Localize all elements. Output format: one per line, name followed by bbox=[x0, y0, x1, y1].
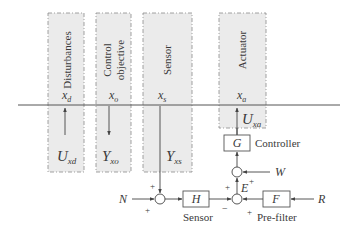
control-system-diagram: Disturbances Control objective Sensor Ac… bbox=[0, 0, 352, 227]
signal-R: R bbox=[317, 192, 326, 206]
sum-junction-e bbox=[232, 194, 242, 204]
signal-W: W bbox=[275, 165, 286, 179]
panel-title-disturbances: Disturbances bbox=[61, 31, 73, 88]
panel-title-control: Control bbox=[101, 43, 113, 77]
sign-noise-plus-bottom: + bbox=[145, 205, 150, 215]
sensor-symbol: H bbox=[191, 192, 202, 206]
sum-junction-noise bbox=[155, 194, 165, 204]
sum-junction-w bbox=[232, 167, 242, 177]
signal-E: E bbox=[240, 181, 249, 195]
prefilter-label: Pre-filter bbox=[257, 211, 297, 223]
panel-title-objective: objective bbox=[114, 40, 126, 80]
sign-noise-plus-top: + bbox=[150, 181, 155, 191]
panel-title-actuator: Actuator bbox=[236, 30, 248, 69]
sign-e-plus-prefilter: + bbox=[247, 207, 252, 217]
controller-symbol: G bbox=[233, 136, 242, 150]
sign-e-minus: − bbox=[222, 203, 228, 214]
panel-title-sensor: Sensor bbox=[161, 45, 173, 75]
sign-e-plus-top: + bbox=[225, 182, 230, 192]
sign-w-plus: + bbox=[249, 176, 254, 186]
sensor-label: Sensor bbox=[183, 211, 213, 223]
prefilter-symbol: F bbox=[271, 192, 280, 206]
controller-label: Controller bbox=[255, 137, 301, 149]
signal-N: N bbox=[118, 192, 128, 206]
